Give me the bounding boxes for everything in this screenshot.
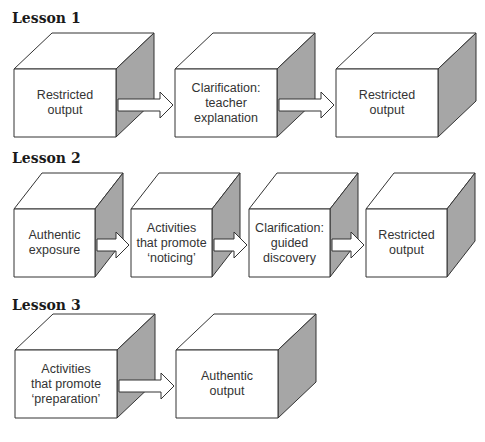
step-label: Restricted output bbox=[366, 209, 447, 277]
step-label: Authentic exposure bbox=[14, 209, 95, 277]
step-label: Activities that promote ‘noticing’ bbox=[131, 209, 212, 277]
step-label: Restricted output bbox=[14, 69, 116, 137]
step-label: Activities that promote ‘preparation’ bbox=[15, 350, 117, 418]
step-label: Clarification: teacher explanation bbox=[175, 69, 277, 137]
step-label: Clarification: guided discovery bbox=[249, 209, 330, 277]
step-label: Restricted output bbox=[336, 69, 438, 137]
step-label: Authentic output bbox=[176, 350, 278, 418]
